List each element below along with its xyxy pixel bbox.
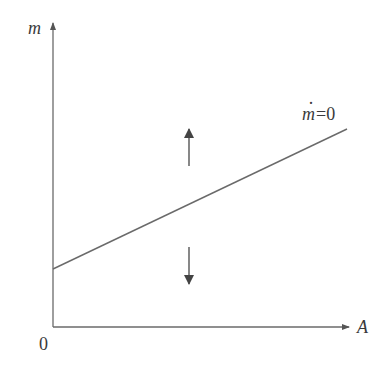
- y-axis-label: m: [28, 18, 41, 38]
- nullcline-line: [53, 129, 347, 269]
- origin-label: 0: [39, 334, 48, 354]
- nullcline-label: m · =0: [302, 93, 335, 124]
- phase-diagram: m A 0 m · =0: [0, 0, 392, 376]
- nullcline-label-dot: ·: [308, 93, 314, 113]
- nullcline-label-rest: =0: [316, 104, 335, 124]
- x-axis-label: A: [356, 317, 369, 337]
